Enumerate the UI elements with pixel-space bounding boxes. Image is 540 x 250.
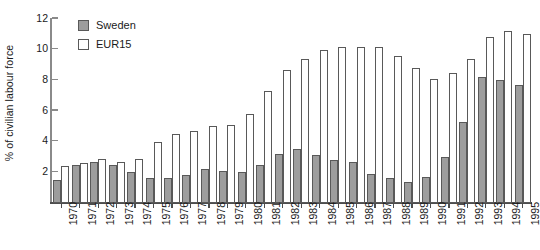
bar-sweden <box>219 171 227 203</box>
bar-group <box>312 12 328 203</box>
bar-group <box>478 12 494 203</box>
legend-label-sweden: Sweden <box>96 20 136 31</box>
bar-group <box>219 12 235 203</box>
bar-group <box>441 12 457 203</box>
x-axis-tick-label: 1993 <box>491 202 505 248</box>
chart-legend: Sweden EUR15 <box>78 17 136 55</box>
bar-group <box>422 12 438 203</box>
x-axis-tick <box>319 204 320 208</box>
bar-eur15 <box>320 50 328 203</box>
bar-sweden <box>127 172 135 203</box>
x-axis-tick-labels: 1970197119721973197419751976197719781979… <box>52 204 532 250</box>
x-axis-tick-label: 1982 <box>288 202 302 248</box>
legend-swatch-sweden-icon <box>78 20 89 31</box>
x-axis-tick <box>61 204 62 208</box>
bar-group <box>53 12 69 203</box>
x-axis-tick <box>448 204 449 208</box>
bar-eur15 <box>357 47 365 203</box>
bar-eur15 <box>264 91 272 203</box>
x-axis-tick-label: 1990 <box>435 202 449 248</box>
legend-item-eur15: EUR15 <box>78 36 136 53</box>
bar-group <box>164 12 180 203</box>
legend-label-eur15: EUR15 <box>96 39 131 50</box>
bar-sweden <box>256 165 264 203</box>
bar-sweden <box>367 174 375 203</box>
bar-eur15 <box>135 159 143 203</box>
bar-group <box>349 12 365 203</box>
bar-eur15 <box>504 31 512 203</box>
bar-eur15 <box>190 131 198 203</box>
x-axis-tick-label: 1995 <box>528 202 540 248</box>
x-axis-tick-label: 1980 <box>251 202 265 248</box>
y-axis-tick-labels: 24681012 <box>18 0 48 250</box>
x-axis-tick-label: 1985 <box>343 202 357 248</box>
bar-sweden <box>275 154 283 203</box>
bar-group <box>386 12 402 203</box>
x-axis-tick <box>264 204 265 208</box>
bar-sweden <box>109 165 117 203</box>
bar-sweden <box>53 180 61 203</box>
x-axis-tick <box>374 204 375 208</box>
bar-eur15 <box>117 162 125 203</box>
bar-group <box>201 12 217 203</box>
bar-sweden <box>459 122 467 203</box>
x-axis-tick <box>153 204 154 208</box>
bar-sweden <box>441 157 449 203</box>
bar-eur15 <box>283 70 291 203</box>
bar-eur15 <box>61 166 69 203</box>
bar-sweden <box>72 165 80 203</box>
bar-eur15 <box>449 73 457 203</box>
bar-sweden <box>496 80 504 203</box>
x-axis-tick <box>208 204 209 208</box>
x-axis-tick <box>98 204 99 208</box>
bar-eur15 <box>523 34 531 203</box>
x-axis-tick-label: 1984 <box>325 202 339 248</box>
bar-sweden <box>386 178 394 203</box>
x-axis-tick <box>411 204 412 208</box>
x-axis-tick-label: 1989 <box>417 202 431 248</box>
bar-sweden <box>146 178 154 203</box>
y-axis-title: % of civilian labour force <box>0 0 18 205</box>
x-axis-tick <box>522 204 523 208</box>
x-axis-tick-label: 1986 <box>362 202 376 248</box>
x-axis-tick <box>504 204 505 208</box>
bar-group <box>293 12 309 203</box>
bar-eur15 <box>412 68 420 203</box>
bar-eur15 <box>172 134 180 203</box>
legend-item-sweden: Sweden <box>78 17 136 34</box>
bar-eur15 <box>98 159 106 203</box>
x-axis-tick-label: 1973 <box>122 202 136 248</box>
x-axis-tick-label: 1974 <box>140 202 154 248</box>
x-axis-tick-label: 1977 <box>195 202 209 248</box>
bar-group <box>367 12 383 203</box>
bar-sweden <box>478 77 486 203</box>
x-axis-tick <box>171 204 172 208</box>
bar-sweden <box>293 149 301 203</box>
y-axis-tick-label: 2 <box>28 166 48 177</box>
x-axis-tick-label: 1987 <box>380 202 394 248</box>
bar-sweden <box>90 162 98 203</box>
x-axis-tick <box>190 204 191 208</box>
bar-group <box>404 12 420 203</box>
x-axis-tick <box>227 204 228 208</box>
bar-eur15 <box>430 79 438 203</box>
x-axis-tick <box>79 204 80 208</box>
bar-eur15 <box>394 56 402 203</box>
x-axis-tick-label: 1972 <box>103 202 117 248</box>
x-axis-tick-label: 1981 <box>269 202 283 248</box>
bar-sweden <box>164 178 172 203</box>
bar-sweden <box>238 172 246 203</box>
bar-group <box>515 12 531 203</box>
bar-eur15 <box>246 114 254 203</box>
bar-group <box>275 12 291 203</box>
x-axis-tick-label: 1994 <box>509 202 523 248</box>
y-axis-title-label: % of civilian labour force <box>3 44 15 160</box>
bar-eur15 <box>301 59 309 203</box>
x-axis-tick-label: 1992 <box>472 202 486 248</box>
bar-sweden <box>349 162 357 203</box>
y-axis-tick-label: 8 <box>28 74 48 85</box>
bar-eur15 <box>209 126 217 203</box>
y-axis-tick-label: 6 <box>28 105 48 116</box>
x-axis-tick <box>467 204 468 208</box>
bar-sweden <box>201 169 209 203</box>
